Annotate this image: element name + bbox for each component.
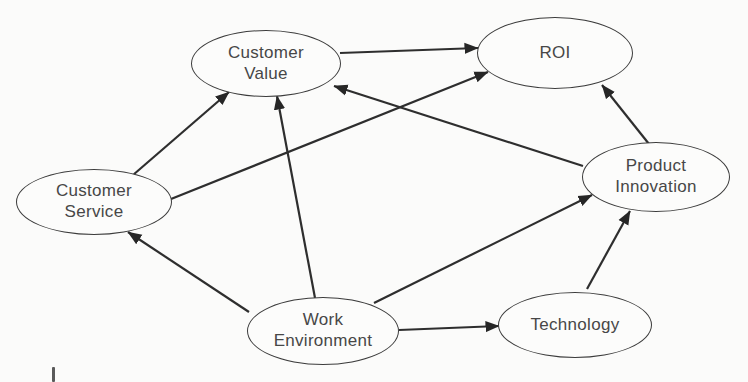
arrow-customer-service-to-roi (171, 72, 488, 199)
arrow-work-environment-to-product-innovation (374, 195, 592, 303)
scan-artifact-tick (52, 367, 55, 382)
node-work-environment-label-line1: Work (303, 310, 344, 331)
node-work-environment-label-line2: Environment (274, 331, 373, 352)
arrow-customer-value-to-roi (340, 48, 478, 53)
node-roi-label: ROI (539, 43, 570, 64)
arrow-work-environment-to-technology (399, 326, 499, 330)
diagram-canvas: Customer Value ROI Customer Service Prod… (0, 0, 748, 382)
node-product-innovation: Product Innovation (582, 142, 730, 212)
arrow-work-environment-to-customer-value (277, 96, 315, 298)
node-customer-value-label-line1: Customer (228, 43, 304, 64)
node-technology: Technology (498, 292, 652, 358)
node-product-innovation-label-line1: Product (626, 156, 687, 177)
node-roi: ROI (477, 17, 633, 89)
arrow-technology-to-product-innovation (587, 211, 630, 289)
node-customer-value: Customer Value (191, 30, 341, 97)
arrow-work-environment-to-customer-service (128, 232, 249, 312)
arrow-product-innovation-to-customer-value (334, 86, 583, 166)
node-product-innovation-label-line2: Innovation (615, 177, 696, 198)
node-customer-service-label-line2: Service (65, 202, 124, 223)
node-customer-value-label-line2: Value (244, 64, 288, 85)
arrow-customer-service-to-customer-value (133, 92, 229, 175)
node-customer-service: Customer Service (16, 169, 172, 235)
node-work-environment: Work Environment (247, 297, 399, 365)
node-customer-service-label-line1: Customer (56, 181, 132, 202)
node-technology-label: Technology (530, 315, 619, 336)
arrow-product-innovation-to-roi (602, 85, 649, 144)
